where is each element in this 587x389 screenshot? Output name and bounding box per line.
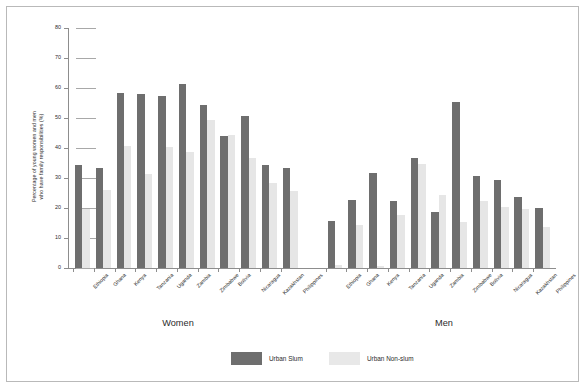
y-tick-mark [64, 88, 68, 89]
bar-urban-slum [473, 176, 480, 268]
bar-urban-slum [137, 94, 144, 268]
x-axis-label: Kazakhstan [534, 272, 558, 296]
bar-urban-non-slum [335, 265, 342, 268]
bar-urban-non-slum [418, 164, 425, 268]
bar-urban-non-slum [82, 209, 89, 268]
bar-urban-non-slum [543, 227, 550, 268]
x-axis-label: Nicaragua [260, 272, 281, 293]
bar-urban-slum [75, 165, 82, 269]
y-tick-mark [64, 58, 68, 59]
bar-urban-slum [262, 165, 269, 268]
y-tick-label: 60 [46, 84, 61, 90]
bar-urban-slum [117, 93, 124, 268]
y-tick-label: 40 [46, 144, 61, 150]
bar-urban-non-slum [145, 174, 152, 268]
y-tick-label: 20 [46, 204, 61, 210]
legend-swatch-urban-slum [231, 352, 262, 365]
bar-series-container [69, 28, 556, 268]
y-tick-label: 50 [46, 114, 61, 120]
bar-urban-slum [514, 197, 521, 268]
y-axis-title: Percentage of young women and men who ha… [31, 57, 44, 257]
legend-item-urban-slum: Urban Slum [231, 350, 303, 366]
bar-urban-non-slum [460, 222, 467, 269]
x-axis-label: Uganda [175, 272, 192, 289]
legend-label-urban-non-slum: Urban Non-slum [367, 355, 414, 362]
bar-urban-slum [328, 221, 335, 268]
x-axis-label: Kenya [385, 272, 400, 287]
bar-urban-non-slum [207, 120, 214, 269]
y-tick-mark [64, 268, 68, 269]
bar-urban-non-slum [103, 190, 110, 268]
x-axis-label: Nicaragua [512, 272, 533, 293]
bar-urban-non-slum [501, 207, 508, 268]
x-axis-label: Tanzania [407, 272, 426, 291]
bar-urban-non-slum [186, 152, 193, 268]
legend-label-urban-slum: Urban Slum [269, 355, 303, 362]
bar-urban-slum [220, 136, 227, 268]
x-axis-label: Ethiopia [92, 272, 110, 290]
bar-urban-slum [411, 158, 418, 268]
bar-urban-non-slum [397, 215, 404, 268]
x-axis-label: Zambia [448, 272, 465, 289]
x-axis-line [68, 268, 556, 269]
bar-urban-slum [200, 105, 207, 268]
plot-area: 01020304050607080 [68, 28, 556, 268]
bar-urban-slum [348, 200, 355, 268]
bar-urban-slum [283, 168, 290, 268]
x-axis-label: Kenya [132, 272, 147, 287]
bar-urban-non-slum [269, 183, 276, 268]
bar-urban-non-slum [439, 195, 446, 269]
y-tick-mark [64, 118, 68, 119]
bar-urban-slum [390, 201, 397, 268]
y-tick-mark [64, 148, 68, 149]
bar-urban-slum [158, 96, 165, 268]
x-axis-label: Zambia [196, 272, 213, 289]
bar-urban-slum [431, 212, 438, 268]
y-tick-label: 10 [46, 234, 61, 240]
bar-urban-non-slum [249, 158, 256, 268]
bar-urban-slum [535, 208, 542, 268]
y-tick-mark [64, 28, 68, 29]
bar-urban-slum [452, 102, 459, 269]
y-tick-label: 70 [46, 54, 61, 60]
x-axis-label: Tanzania [155, 272, 174, 291]
legend-item-urban-non-slum: Urban Non-slum [329, 350, 414, 366]
x-axis-label: Ethiopia [345, 272, 363, 290]
x-axis-label: Uganda [427, 272, 444, 289]
bar-urban-slum [241, 116, 248, 268]
bar-urban-non-slum [377, 266, 384, 268]
chart-figure: Percentage of young women and men who ha… [0, 0, 587, 389]
y-tick-label: 0 [46, 264, 61, 270]
group-label-men: Men [404, 318, 484, 328]
x-axis-label: Kazakhstan [282, 272, 306, 296]
bar-urban-slum [494, 180, 501, 268]
x-axis-label: Bolivia [236, 272, 251, 287]
y-tick-label: 80 [46, 24, 61, 30]
bar-urban-non-slum [228, 135, 235, 268]
x-axis-label: Ghana [364, 272, 379, 287]
y-tick-mark [64, 208, 68, 209]
y-tick-label: 30 [46, 174, 61, 180]
bar-urban-slum [179, 84, 186, 269]
chart-legend: Urban Slum Urban Non-slum [0, 350, 587, 370]
bar-urban-slum [96, 168, 103, 268]
legend-swatch-urban-non-slum [329, 352, 360, 365]
bar-urban-non-slum [166, 147, 173, 268]
bar-urban-non-slum [480, 201, 487, 268]
y-tick-mark [64, 238, 68, 239]
bar-urban-non-slum [124, 146, 131, 268]
x-axis-label: Ghana [112, 272, 127, 287]
y-tick-mark [64, 178, 68, 179]
x-axis-labels: EthiopiaGhanaKenyaTanzaniaUgandaZambiaZi… [68, 272, 556, 312]
bar-urban-non-slum [522, 209, 529, 268]
bar-urban-slum [369, 173, 376, 268]
bar-urban-non-slum [290, 191, 297, 268]
group-label-women: Women [138, 318, 218, 328]
bar-urban-non-slum [356, 225, 363, 269]
